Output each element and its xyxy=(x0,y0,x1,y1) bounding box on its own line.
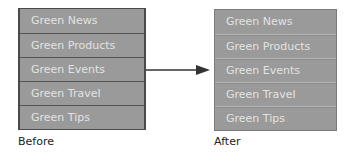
arrow-right-icon xyxy=(146,64,210,76)
menu-item[interactable]: Green Events xyxy=(20,57,144,81)
menu-item[interactable]: Green Products xyxy=(20,33,144,57)
menu-item[interactable]: Green Products xyxy=(215,34,336,58)
menu-after: Green News Green Products Green Events G… xyxy=(214,9,337,131)
menu-item[interactable]: Green News xyxy=(20,9,144,33)
menu-item[interactable]: Green Travel xyxy=(215,82,336,106)
menu-item[interactable]: Green Tips xyxy=(20,105,144,129)
menu-item[interactable]: Green Tips xyxy=(215,106,336,130)
menu-item[interactable]: Green Travel xyxy=(20,81,144,105)
menu-item[interactable]: Green Events xyxy=(215,58,336,82)
menu-before: Green News Green Products Green Events G… xyxy=(18,8,146,130)
caption-before: Before xyxy=(18,135,54,148)
caption-after: After xyxy=(214,135,240,148)
menu-item[interactable]: Green News xyxy=(215,10,336,34)
